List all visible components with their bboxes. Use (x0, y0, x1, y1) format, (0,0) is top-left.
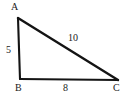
side-length-label-bc: 8 (63, 83, 68, 93)
side-length-label-ac: 10 (68, 33, 78, 43)
triangle-figure: A B C 5 10 8 (0, 0, 133, 104)
triangle-side-ac (18, 18, 118, 80)
triangle-side-ab (18, 18, 20, 79)
vertex-label-a: A (11, 2, 18, 12)
side-length-label-ab: 5 (6, 45, 11, 55)
triangle-side-bc (20, 79, 118, 80)
vertex-label-c: C (113, 83, 120, 93)
vertex-label-b: B (15, 83, 22, 93)
